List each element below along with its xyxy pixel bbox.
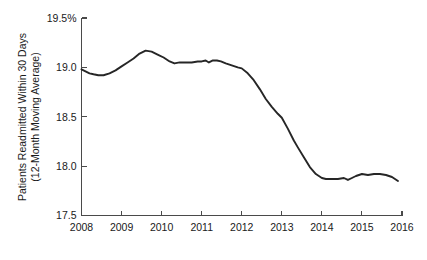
y-tick-label: 18.5	[56, 111, 77, 123]
x-axis-ticks	[82, 211, 403, 216]
y-axis-tick-labels: 19.5%19.018.518.017.5	[47, 12, 77, 222]
x-tick-label: 2008	[70, 221, 94, 233]
y-axis-title-line-1: Patients Readmitted Within 30 Days	[16, 33, 28, 201]
y-axis: 19.5%19.018.518.017.5	[47, 12, 87, 222]
y-axis-title: Patients Readmitted Within 30 Days (12-M…	[16, 33, 41, 201]
y-tick-label: 17.5	[56, 209, 77, 221]
data-line-readmissions	[82, 51, 398, 181]
x-tick-label: 2014	[310, 221, 334, 233]
y-axis-title-line-2: (12-Month Moving Average)	[29, 52, 41, 181]
x-tick-label: 2010	[150, 221, 174, 233]
readmissions-line-chart: 19.5%19.018.518.017.5 200820092010201120…	[0, 0, 427, 260]
y-tick-label: 19.0	[56, 61, 77, 73]
x-tick-label: 2016	[390, 221, 414, 233]
y-tick-label: 18.0	[56, 160, 77, 172]
x-tick-label: 2011	[190, 221, 213, 233]
x-axis-tick-labels: 200820092010201120122013201420152016	[70, 221, 414, 233]
x-tick-label: 2013	[270, 221, 294, 233]
x-tick-label: 2012	[230, 221, 254, 233]
y-axis-ticks	[82, 18, 87, 216]
chart-canvas: 19.5%19.018.518.017.5 200820092010201120…	[0, 0, 427, 260]
x-axis: 200820092010201120122013201420152016	[70, 211, 414, 233]
data-series-group	[82, 51, 398, 181]
x-tick-label: 2009	[110, 221, 134, 233]
y-tick-label: 19.5%	[47, 12, 77, 24]
x-tick-label: 2015	[350, 221, 374, 233]
